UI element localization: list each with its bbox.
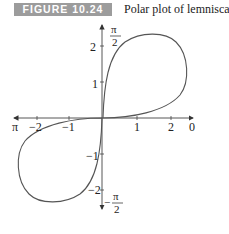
x-label-minus2: −2 [29, 120, 42, 134]
svg-text:π: π [111, 23, 117, 35]
y-label-2: 2 [90, 40, 96, 54]
lemniscate-plot: π −2 −1 1 2 0 2 1 −1 −2 π 2 − π 2 [0, 0, 229, 234]
svg-text:−: − [104, 196, 110, 208]
x-label-1: 1 [134, 120, 140, 134]
y-top-label-pi-over-2: π 2 [110, 23, 121, 48]
x-label-minus1: −1 [62, 120, 75, 134]
x-label-2: 2 [168, 120, 174, 134]
x-label-pi: π [12, 120, 18, 134]
svg-text:2: 2 [114, 203, 120, 215]
svg-text:π: π [113, 190, 119, 202]
y-label-minus1: −1 [86, 149, 99, 163]
y-label-minus2: −2 [88, 183, 101, 197]
svg-text:2: 2 [112, 36, 118, 48]
y-bottom-label-minus-pi-over-2: − π 2 [104, 190, 123, 215]
y-label-1: 1 [92, 77, 98, 91]
x-label-0: 0 [189, 120, 195, 134]
